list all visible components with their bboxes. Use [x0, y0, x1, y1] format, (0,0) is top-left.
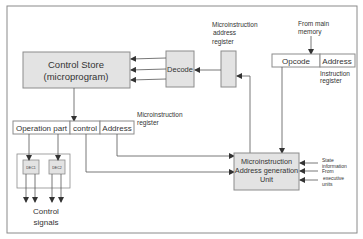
decoder-group: DEC1 DEC2	[17, 154, 70, 188]
decoder-1-label: DEC1	[26, 166, 35, 170]
microinstruction-register: Operation part control Address	[13, 121, 134, 134]
mar-label-3: register	[212, 38, 235, 46]
decoder-2-label: DEC2	[52, 166, 61, 170]
decode-label: Decode	[167, 65, 193, 74]
from-memory-line1: From main	[298, 20, 329, 27]
mir-field-control: control	[73, 124, 97, 133]
from-memory-line2: memory	[298, 28, 322, 36]
side-input-5: units	[322, 181, 333, 187]
control-store-title: Control Store	[48, 59, 104, 70]
control-store-box: Control Store (microprogram)	[23, 52, 130, 88]
microprogram-control-diagram: Control Store (microprogram) Decode Micr…	[0, 0, 363, 239]
instruction-register: Opcode Address	[272, 54, 355, 67]
ir-label-1: Instruction	[320, 70, 350, 77]
control-store-subtitle: (microprogram)	[44, 71, 109, 82]
agu-line2: Address generation	[235, 166, 298, 175]
decode-box: Decode	[166, 51, 194, 87]
control-signals-line2: signals	[34, 218, 59, 227]
agu-line1: Microinstruction	[241, 157, 292, 166]
mir-field-address: Address	[102, 124, 131, 133]
agu-line3: Unit	[260, 175, 273, 184]
side-input-3: From	[322, 168, 334, 174]
mir-label-2: register	[137, 119, 160, 127]
control-signals-line1: Control	[33, 207, 59, 216]
outer-frame	[7, 6, 357, 233]
mar-label-1: Microinstruction	[212, 21, 258, 28]
address-generation-unit: Microinstruction Address generation Unit	[234, 153, 299, 190]
ir-field-opcode: Opcode	[282, 57, 311, 66]
mar-label-2: address	[213, 29, 237, 36]
mir-field-operation: Operation part	[16, 124, 68, 133]
ir-field-address: Address	[322, 57, 351, 66]
microinstruction-address-register	[221, 51, 236, 87]
ir-label-2: register	[320, 77, 343, 85]
mir-label-1: Microinstruction	[137, 111, 183, 118]
